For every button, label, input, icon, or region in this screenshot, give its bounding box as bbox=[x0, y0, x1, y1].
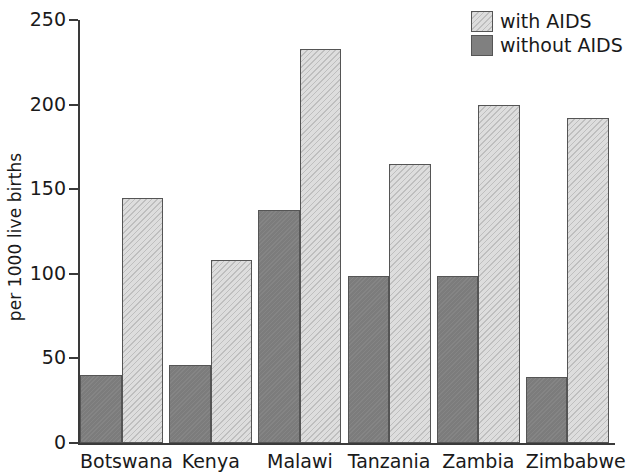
y-axis-title: per 1000 live births bbox=[0, 0, 30, 474]
y-axis-tick bbox=[69, 273, 78, 275]
dark-gray-swatch bbox=[471, 35, 493, 56]
y-axis-tick bbox=[69, 104, 78, 106]
bar-group bbox=[80, 20, 163, 443]
x-axis-tick-label: Zimbabwe bbox=[526, 449, 609, 473]
bar-without-aids bbox=[348, 276, 390, 444]
y-axis-tick-label: 250 bbox=[6, 10, 66, 29]
bar-without-aids bbox=[526, 377, 568, 443]
y-axis-tick-label: 150 bbox=[6, 179, 66, 198]
x-axis-tick-label: Kenya bbox=[169, 449, 252, 473]
x-axis-line bbox=[78, 443, 615, 445]
bar-without-aids bbox=[258, 210, 300, 443]
plot-area bbox=[80, 20, 615, 443]
bar-group bbox=[258, 20, 341, 443]
x-axis-tick-label: Malawi bbox=[258, 449, 341, 473]
x-axis-tick-label: Botswana bbox=[80, 449, 163, 473]
y-axis-tick-label: 50 bbox=[6, 348, 66, 367]
legend-item-label: with AIDS bbox=[500, 11, 592, 32]
bar-with-aids bbox=[478, 105, 520, 443]
bar-without-aids bbox=[169, 365, 211, 443]
bar-without-aids bbox=[80, 375, 122, 443]
bar-with-aids bbox=[122, 198, 164, 443]
y-axis-tick-label: 0 bbox=[6, 433, 66, 452]
bar-without-aids bbox=[437, 276, 479, 444]
bar-with-aids bbox=[567, 118, 609, 443]
x-axis-tick-label: Zambia bbox=[437, 449, 520, 473]
y-axis-tick-label: 100 bbox=[6, 264, 66, 283]
y-axis-tick bbox=[69, 442, 78, 444]
x-axis-tick-label: Tanzania bbox=[348, 449, 431, 473]
legend-item: with AIDS bbox=[471, 11, 623, 32]
legend-item-label: without AIDS bbox=[500, 35, 623, 56]
bar-group bbox=[348, 20, 431, 443]
bar-with-aids bbox=[211, 260, 253, 443]
chart-legend: with AIDSwithout AIDS bbox=[471, 11, 623, 56]
bar-with-aids bbox=[300, 49, 342, 443]
legend-item: without AIDS bbox=[471, 35, 623, 56]
bar-group bbox=[526, 20, 609, 443]
y-axis-tick bbox=[69, 19, 78, 21]
y-axis-tick bbox=[69, 357, 78, 359]
bar-group bbox=[169, 20, 252, 443]
light-hatched-swatch bbox=[471, 11, 493, 32]
bar-with-aids bbox=[389, 164, 431, 443]
y-axis-tick-label: 200 bbox=[6, 95, 66, 114]
bar-group bbox=[437, 20, 520, 443]
y-axis-tick bbox=[69, 188, 78, 190]
x-axis-labels: BotswanaKenyaMalawiTanzaniaZambiaZimbabw… bbox=[80, 449, 615, 474]
